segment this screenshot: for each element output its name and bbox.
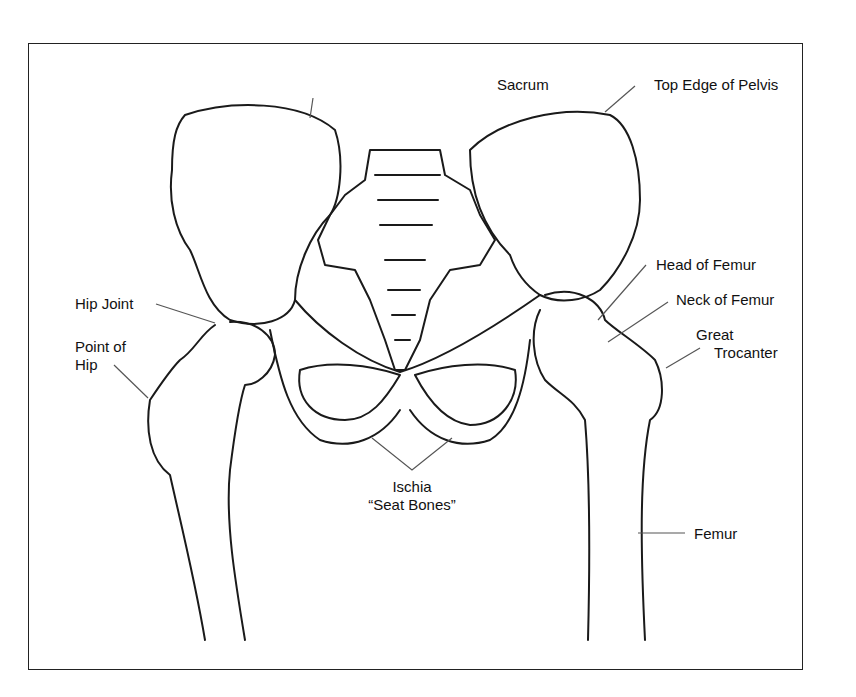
label-sacrum: Sacrum (497, 75, 549, 94)
label-neck-of-femur: Neck of Femur (676, 290, 774, 309)
leader-hip-joint (156, 304, 215, 323)
label-top-edge-pelvis: Top Edge of Pelvis (654, 75, 778, 94)
leader-point-hip (114, 365, 148, 398)
label-point-of-hip-line1: Point of (75, 337, 126, 356)
label-ischia-line1: Ischia (362, 477, 462, 496)
leader-neck-femur (608, 302, 668, 342)
leader-top-edge (605, 86, 635, 112)
left-femur (148, 322, 275, 640)
leader-ischia (372, 438, 452, 470)
label-femur: Femur (694, 524, 737, 543)
leader-head-femur (598, 265, 646, 320)
label-great-trocanter-line2: Trocanter (714, 343, 778, 362)
left-ischium (299, 365, 400, 420)
left-ilium (171, 105, 341, 324)
label-ischia-line2: “Seat Bones” (342, 495, 482, 514)
label-great-trocanter-line1: Great (696, 325, 734, 344)
label-head-of-femur: Head of Femur (656, 255, 756, 274)
label-point-of-hip-line2: Hip (75, 355, 98, 374)
right-ilium (470, 112, 640, 301)
right-ischium (415, 365, 516, 425)
leader-great-trocanter (666, 348, 700, 368)
right-femur (534, 292, 662, 640)
label-hip-joint: Hip Joint (75, 294, 133, 313)
